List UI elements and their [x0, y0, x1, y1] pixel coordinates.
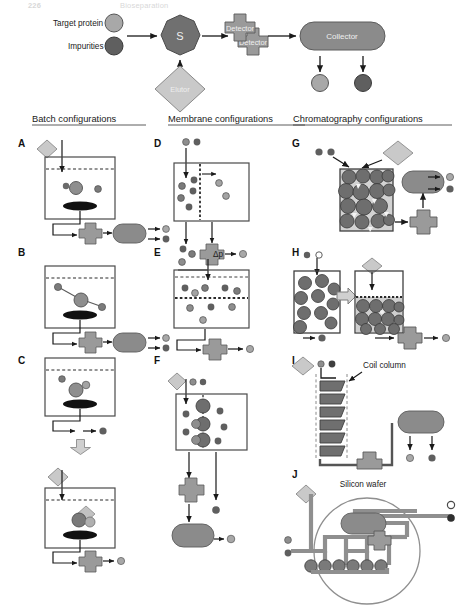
particle-F5 [215, 438, 222, 445]
collector-I [398, 411, 444, 433]
panel-E: E Δp [154, 247, 254, 360]
magnet-C-bottom [63, 530, 97, 539]
particle-E9 [200, 317, 207, 324]
collector-F [172, 524, 214, 547]
particle-A3 [95, 186, 102, 193]
silicon-wafer-annotation: Silicon wafer [340, 480, 387, 489]
panel-H: H [292, 247, 450, 349]
out-dot-C-waste [99, 427, 106, 434]
panel-G: G [292, 138, 454, 234]
feed-dot-F1 [190, 379, 196, 385]
particle-E3 [222, 285, 229, 292]
particle-D5 [186, 204, 193, 211]
detector-E [203, 339, 227, 360]
particle-C3 [82, 381, 90, 389]
collector-G [402, 171, 444, 193]
panel-B: B [18, 247, 169, 353]
particle-E5 [234, 288, 241, 295]
detector-I [357, 452, 382, 469]
legend-impurities-dot [105, 37, 123, 55]
expanded-beads-H [294, 275, 341, 334]
particle-D4 [178, 195, 185, 202]
out-dot-H2 [442, 334, 449, 341]
collector-node: Collector [300, 22, 385, 50]
particle-A2 [63, 183, 69, 189]
bound-clusters-F [192, 399, 210, 447]
out-dot-D1 [180, 246, 187, 253]
legend-target-protein-label: Target protein [53, 19, 104, 28]
feed-dot-H2 [316, 252, 322, 258]
particle-C1 [59, 376, 66, 383]
out-dot-D4 [239, 250, 246, 257]
particle-E7 [208, 304, 215, 311]
particle-E8 [229, 304, 236, 311]
out-dot-C [117, 557, 124, 564]
detector-A [79, 223, 102, 244]
feed-dot-D1 [183, 139, 190, 146]
particle-E4 [192, 290, 199, 297]
top-schematic: Target protein Impurities S Detector Det… [53, 14, 385, 112]
outlet-line-E [177, 329, 205, 350]
particle-E2 [202, 285, 209, 292]
column-headings: Batch configurations Membrane configurat… [32, 114, 452, 125]
feed-dot-G1 [315, 148, 322, 155]
panel-I: I Coil column [292, 355, 444, 469]
elutor-diamond-I [292, 357, 314, 375]
panel-label-C: C [18, 355, 25, 366]
detector-B [79, 332, 102, 353]
panel-label-H: H [292, 247, 299, 258]
out-dot-G1 [446, 173, 453, 180]
detector-C [79, 551, 102, 572]
arrow-elutor-in-G [362, 160, 382, 168]
out-dot-A2 [163, 236, 170, 243]
outlet-line-B [53, 320, 80, 344]
out-dot-G2 [446, 185, 453, 192]
particle-E6 [187, 305, 194, 312]
bioseparation-figure: Target protein Impurities S Detector Det… [0, 0, 459, 611]
particle-C5 [85, 517, 95, 527]
out-dot-D2 [189, 251, 196, 258]
out-dot-I2 [428, 454, 435, 461]
legend-target-protein-dot [105, 14, 123, 32]
panel-D: D [154, 138, 249, 265]
elutor-diamond-A [37, 140, 57, 158]
outlet-line-C-top [53, 409, 80, 431]
particle-B1 [54, 283, 61, 290]
panel-label-B: B [18, 247, 25, 258]
elutor-label: Elutor [170, 85, 190, 94]
output-target-protein-dot [312, 75, 329, 92]
stage-transition-arrow-C [71, 440, 91, 455]
particle-B3 [98, 303, 105, 310]
out-dot-F2 [227, 535, 235, 543]
panel-label-D: D [154, 138, 161, 149]
column-heading-membrane: Membrane configurations [168, 114, 273, 124]
particle-D6 [216, 180, 223, 187]
out-dot-A1 [163, 226, 170, 233]
out-dot-H1 [318, 334, 325, 341]
particle-F1 [183, 411, 190, 418]
out-dot-E [246, 345, 253, 352]
particle-C2 [69, 383, 83, 397]
particle-D3 [190, 188, 197, 195]
legend-impurities-label: Impurities [68, 42, 104, 51]
out-dot-B2 [163, 345, 170, 352]
particle-D1 [179, 183, 186, 190]
membrane-column-F [176, 394, 247, 450]
particle-F3 [217, 408, 224, 415]
panel-label-J: J [292, 469, 298, 480]
figure-page: 226 Bioseparation Target protein Impurit… [0, 0, 459, 611]
feed-line-I [321, 368, 336, 378]
collector-B [113, 333, 146, 352]
bed-void-H [380, 310, 384, 314]
separator-label: S [176, 30, 183, 42]
delta-p-annotation: Δp [213, 250, 223, 259]
out-dot-B1 [163, 335, 170, 342]
magnet-B [63, 310, 97, 319]
out-dot-F1 [212, 506, 220, 514]
out-dot-J1 [447, 501, 454, 508]
detector-G [410, 210, 437, 234]
detector-F [179, 478, 204, 502]
coil-turns-I [320, 381, 345, 456]
panel-label-A: A [18, 138, 25, 149]
feed-dot-I2 [329, 361, 336, 368]
